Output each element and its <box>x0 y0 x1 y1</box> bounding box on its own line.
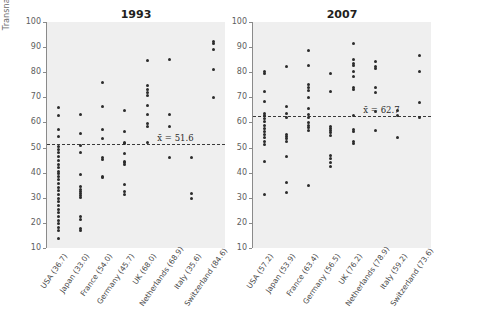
plot-area-background <box>253 22 431 248</box>
data-point <box>285 155 288 158</box>
data-point <box>263 90 266 93</box>
data-point <box>352 64 355 67</box>
data-point <box>352 58 355 61</box>
data-point <box>307 96 310 99</box>
y-tick-mark <box>249 22 252 23</box>
y-tick-label: 10 <box>215 243 247 252</box>
data-point <box>307 49 310 52</box>
data-point <box>352 114 355 117</box>
data-point <box>307 121 310 124</box>
y-tick-label: 100 <box>215 17 247 26</box>
y-tick-label: 60 <box>215 117 247 126</box>
y-tick-mark <box>249 47 252 48</box>
mean-reference-line <box>253 116 431 117</box>
panel-2007: 1020304050607080901002007x̄ = 62.7USA (5… <box>0 0 481 320</box>
data-point <box>352 42 355 45</box>
data-point <box>263 136 266 139</box>
data-point <box>263 143 266 146</box>
data-point <box>352 130 355 133</box>
y-tick-label: 20 <box>215 218 247 227</box>
data-point <box>352 142 355 145</box>
data-point <box>285 116 288 119</box>
data-point <box>352 88 355 91</box>
panel-title: 2007 <box>253 8 431 21</box>
y-axis-line <box>252 22 253 248</box>
y-tick-label: 40 <box>215 168 247 177</box>
data-point <box>263 193 266 196</box>
y-tick-label: 50 <box>215 143 247 152</box>
y-tick-label: 90 <box>215 42 247 51</box>
y-tick-mark <box>249 198 252 199</box>
data-point <box>374 67 377 70</box>
y-tick-mark <box>249 122 252 123</box>
y-tick-mark <box>249 97 252 98</box>
mean-value-label: x̄ = 62.7 <box>363 105 399 115</box>
data-point <box>374 86 377 89</box>
y-tick-mark <box>249 148 252 149</box>
y-tick-mark <box>249 223 252 224</box>
y-tick-mark <box>249 173 252 174</box>
y-tick-label: 80 <box>215 67 247 76</box>
data-point <box>307 129 310 132</box>
y-tick-label: 30 <box>215 193 247 202</box>
transnationality-index-figure: Transnationality index 10203040506070809… <box>0 0 481 320</box>
data-point <box>285 140 288 143</box>
data-point <box>285 105 288 108</box>
data-point <box>374 60 377 63</box>
y-tick-mark <box>249 248 252 249</box>
y-tick-mark <box>249 72 252 73</box>
data-point <box>263 72 266 75</box>
y-tick-label: 70 <box>215 92 247 101</box>
data-point <box>352 75 355 78</box>
data-point <box>285 181 288 184</box>
